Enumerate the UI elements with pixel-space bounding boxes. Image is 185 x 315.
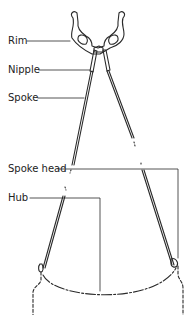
wheel-diagram: Rim Nipple Spoke Spoke head Hub (0, 0, 185, 315)
spoke-head-label: Spoke head (8, 163, 67, 175)
nipple-label: Nipple (8, 64, 40, 76)
rim-shape (72, 12, 125, 54)
hub-shape (33, 266, 183, 315)
spoke-left-lower (43, 187, 66, 268)
spoke-right-lower (141, 163, 174, 265)
spoke-label: Spoke (8, 92, 38, 104)
rim-label: Rim (8, 35, 27, 47)
nipple-shapes (90, 50, 110, 72)
diagram-graphic (0, 0, 185, 315)
spoke-right (107, 71, 135, 146)
spoke-left (70, 71, 93, 173)
spoke-head-left (39, 264, 43, 272)
hub-label: Hub (8, 192, 28, 204)
